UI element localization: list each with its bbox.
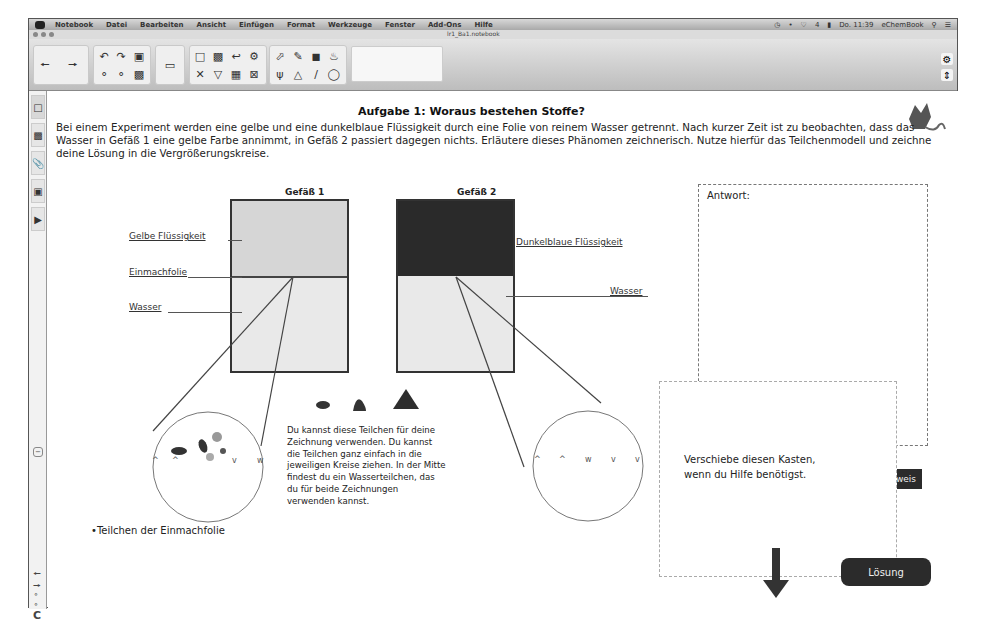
notebook-page: Aufgabe 1: Woraus bestehen Stoffe? Bei e… <box>48 91 959 609</box>
clear-page-icon[interactable]: ▣ <box>132 49 146 63</box>
properties-tab-icon[interactable]: ▣ <box>31 179 45 203</box>
redo-icon[interactable]: ↷ <box>114 49 128 63</box>
link-small-icon[interactable]: ⚬ <box>33 591 39 599</box>
table-icon[interactable]: ▦ <box>229 67 243 81</box>
status-area: ◷ • ♡ 4 ▮ Do. 11:39 eChemBook ⚲ ☰ <box>774 19 951 30</box>
notification-icon[interactable]: ☰ <box>945 21 951 29</box>
capture-icon[interactable]: ⚙ <box>247 49 261 63</box>
menu-fenster[interactable]: Fenster <box>385 21 415 29</box>
help-line-2: wenn du Hilfe benötigst. <box>684 467 815 482</box>
close-box-icon[interactable]: ⊠ <box>247 67 261 81</box>
menu-werkzeuge[interactable]: Werkzeuge <box>328 21 372 29</box>
select-icon[interactable]: ⬀ <box>273 49 287 63</box>
delete-icon[interactable]: ✕ <box>193 67 207 81</box>
attachments-tab-icon[interactable]: 📎 <box>31 151 45 175</box>
gallery-icon[interactable]: ▩ <box>211 49 225 63</box>
svg-text:^: ^ <box>152 456 159 465</box>
clock[interactable]: Do. 11:39 <box>839 21 873 29</box>
time-machine-icon[interactable]: ◷ <box>774 21 780 29</box>
pen-link-icon[interactable]: ⚬ <box>97 67 111 81</box>
collapse-sidebar-icon[interactable]: − <box>33 447 43 457</box>
particles-hint: Du kannst diese Teilchen für deine Zeich… <box>287 425 447 508</box>
forward-arrow-icon[interactable]: 🠖 <box>66 58 80 72</box>
tools-group: ⬀ ✎ ◼ ♨ ψ △ ∕ ◯ <box>269 45 347 85</box>
document-camera-icon[interactable]: ▽ <box>211 67 225 81</box>
sidebar: □ ▩ 📎 ▣ ▶ − 🠔 🠖 ⚬ ⚬ C <box>29 91 47 609</box>
particle-water <box>353 399 366 411</box>
eraser-icon[interactable]: ◼ <box>309 49 323 63</box>
toolbar: 🠔 🠖 ↶ ↷ ▣ ⚬ ⚬ ▩ ▭ □ ▩ ↩ ⚙ ✕ ▽ ▦ ⊠ ⬀ ✎ ◼ <box>29 39 957 91</box>
insert-group: □ ▩ ↩ ⚙ ✕ ▽ ▦ ⊠ <box>189 45 267 85</box>
window-titlebar: lr1_Ba1.notebook <box>29 30 957 39</box>
apple-menu-icon[interactable] <box>35 21 45 29</box>
solution-button[interactable]: Lösung <box>841 558 931 586</box>
battery-icon[interactable]: ▮ <box>827 21 831 29</box>
settings-gear-icon[interactable]: ⚙ <box>941 53 953 65</box>
minimize-window-button[interactable] <box>41 32 46 37</box>
spotlight-icon[interactable]: ⚲ <box>932 21 937 29</box>
chembook-logo-icon: C <box>33 609 41 622</box>
shapes-icon[interactable]: △ <box>291 67 305 81</box>
menu-app-name[interactable]: Notebook <box>55 21 93 29</box>
menu-bearbeiten[interactable]: Bearbeiten <box>140 21 184 29</box>
line-icon[interactable]: ∕ <box>309 67 323 81</box>
wifi-icon[interactable]: ♡ <box>801 21 807 29</box>
membrane-particles-caption[interactable]: •Teilchen der Einmachfolie <box>91 525 225 536</box>
volume-level[interactable]: 4 <box>815 21 819 29</box>
tool-properties-area[interactable] <box>351 46 443 82</box>
undo-icon[interactable]: ↶ <box>97 49 111 63</box>
svg-text:^: ^ <box>172 456 179 465</box>
membrane-caption-text: Teilchen der Einmachfolie <box>97 525 225 536</box>
user-name[interactable]: eChemBook <box>881 21 923 29</box>
answer-label: Antwort: <box>707 190 750 201</box>
rotate-icon[interactable]: ↩ <box>229 49 243 63</box>
screen: Notebook Datei Bearbeiten Ansicht Einfüg… <box>28 18 958 608</box>
particle-blue <box>393 389 419 409</box>
gallery-tab-icon[interactable]: ▩ <box>31 123 45 147</box>
window-controls <box>33 32 54 37</box>
link-icon[interactable]: ⚬ <box>114 67 128 81</box>
svg-text:w: w <box>585 455 592 464</box>
menu-format[interactable]: Format <box>287 21 315 29</box>
screen-shade-icon[interactable]: ▭ <box>163 58 177 72</box>
magic-pen-icon[interactable]: ψ <box>273 67 287 81</box>
svg-text:v: v <box>611 455 616 464</box>
page-sorter-tab-icon[interactable]: □ <box>31 95 45 119</box>
addons-tab-icon[interactable]: ▶ <box>31 207 45 231</box>
menu-einfuegen[interactable]: Einfügen <box>239 21 274 29</box>
insert-page-icon[interactable]: □ <box>193 49 207 63</box>
edit-group: ↶ ↷ ▣ ⚬ ⚬ ▩ <box>93 45 151 85</box>
menu-hilfe[interactable]: Hilfe <box>474 21 492 29</box>
fill-icon[interactable]: ♨ <box>327 49 341 63</box>
svg-text:v: v <box>635 455 640 464</box>
close-window-button[interactable] <box>33 32 38 37</box>
svg-text:w: w <box>257 456 264 465</box>
down-arrow-icon <box>762 548 790 600</box>
bluetooth-icon[interactable]: • <box>788 21 792 29</box>
toolbar-toggle-icon[interactable]: ⇕ <box>941 69 953 81</box>
zoom-window-button[interactable] <box>49 32 54 37</box>
svg-text:^: ^ <box>534 455 541 464</box>
window-title: lr1_Ba1.notebook <box>447 30 500 37</box>
svg-text:v: v <box>232 456 237 465</box>
pen-icon[interactable]: ✎ <box>291 49 305 63</box>
menu-datei[interactable]: Datei <box>106 21 127 29</box>
save-icon[interactable]: ▩ <box>132 67 146 81</box>
menu-ansicht[interactable]: Ansicht <box>197 21 226 29</box>
menu-bar: Notebook Datei Bearbeiten Ansicht Einfüg… <box>29 19 957 30</box>
svg-text:^: ^ <box>559 455 566 464</box>
menu-addons[interactable]: Add-Ons <box>428 21 461 29</box>
particle-yellow <box>316 401 330 409</box>
screen-group: ▭ <box>155 45 185 85</box>
back-arrow-icon[interactable]: 🠔 <box>38 58 52 72</box>
lasso-icon[interactable]: ◯ <box>327 67 341 81</box>
nav-group: 🠔 🠖 <box>33 45 89 85</box>
link-small-icon-2[interactable]: ⚬ <box>33 601 39 609</box>
help-line-1: Verschiebe diesen Kasten, <box>684 452 815 467</box>
help-box-text: Verschiebe diesen Kasten, wenn du Hilfe … <box>684 452 815 482</box>
